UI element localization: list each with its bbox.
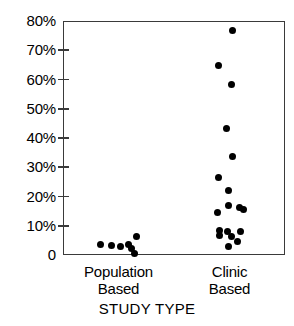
y-tick-label: 60%: [0, 72, 56, 87]
y-tick-mark: [58, 79, 69, 81]
data-point: [225, 187, 232, 194]
data-point: [108, 242, 115, 249]
x-group-label-line1: Clinic: [170, 263, 290, 280]
y-tick-mark: [58, 196, 69, 198]
y-tick-label: 40%: [0, 130, 56, 145]
data-point: [240, 206, 247, 213]
y-tick-mark: [58, 166, 69, 168]
data-point: [237, 228, 244, 235]
y-tick-mark: [58, 108, 69, 110]
y-tick-mark: [58, 49, 69, 51]
data-point: [215, 62, 222, 69]
y-tick-label: 80%: [0, 13, 56, 28]
data-point: [117, 243, 124, 250]
data-point: [133, 233, 140, 240]
y-tick-mark: [58, 137, 69, 139]
y-tick-mark: [58, 225, 69, 227]
data-point: [225, 202, 232, 209]
data-point: [215, 174, 222, 181]
data-point: [223, 125, 230, 132]
y-tick-label: 50%: [0, 101, 56, 116]
data-point: [229, 153, 236, 160]
data-point: [216, 232, 223, 239]
y-axis: 010%20%30%40%50%60%70%80%: [0, 0, 56, 326]
data-point: [214, 209, 221, 216]
x-group-label-line2: Based: [170, 280, 290, 297]
x-group-label-line1: Population: [59, 263, 179, 280]
y-tick-label: 20%: [0, 189, 56, 204]
data-point: [225, 243, 232, 250]
data-point: [228, 81, 235, 88]
y-tick-label: 0: [0, 247, 56, 262]
x-group-label-clinic-based: ClinicBased: [170, 263, 290, 297]
y-tick-label: 30%: [0, 159, 56, 174]
data-point: [131, 250, 138, 257]
y-tick-label: 10%: [0, 218, 56, 233]
data-point: [97, 241, 104, 248]
plot-area: [63, 21, 285, 255]
x-axis-title: STUDY TYPE: [0, 301, 294, 317]
data-point: [229, 27, 236, 34]
x-group-label-line2: Based: [59, 280, 179, 297]
y-tick-label: 70%: [0, 42, 56, 57]
scatter-plot-figure: 010%20%30%40%50%60%70%80% PopulationBase…: [0, 0, 294, 326]
data-point: [234, 238, 241, 245]
x-group-label-population-based: PopulationBased: [59, 263, 179, 297]
